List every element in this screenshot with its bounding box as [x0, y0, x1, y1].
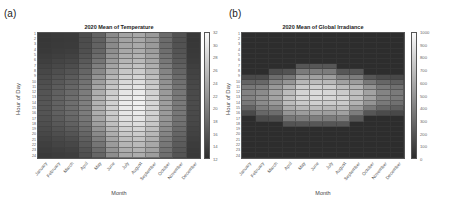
heatmap-cell [173, 153, 187, 158]
x-tick-label: July [325, 161, 334, 170]
heatmap-cell [269, 153, 283, 158]
panel-b-label: (b) [229, 8, 241, 19]
irradiance-heatmap [241, 32, 405, 159]
heatmap-cell [79, 153, 93, 158]
heatmap-cell [119, 153, 133, 158]
temperature-chart-title: 2020 Mean of Temperature [37, 24, 201, 30]
colorbar-tick-label: 26 [213, 68, 218, 73]
colorbar-tick-label: 14 [213, 144, 218, 149]
colorbar-tick-label: 22 [213, 93, 218, 98]
irradiance-colorbar [411, 32, 417, 159]
colorbar-tick-label: 800 [420, 55, 427, 60]
colorbar-tick-label: 20 [213, 106, 218, 111]
irradiance-y-tick-labels: 123456789101112131415161718192021222324 [231, 32, 240, 159]
x-tick-label: March [267, 161, 279, 174]
x-tick-label: May [93, 161, 102, 171]
x-tick-label: June [106, 161, 116, 172]
heatmap-cell [65, 153, 79, 158]
x-tick-label: July [121, 161, 130, 170]
heatmap-cell [283, 153, 297, 158]
temperature-x-axis-title: Month [37, 190, 201, 196]
irradiance-y-axis-title: Hour of Day [225, 83, 231, 115]
heatmap-cell [296, 153, 310, 158]
colorbar-tick-label: 500 [420, 93, 427, 98]
colorbar-tick-label: 700 [420, 68, 427, 73]
colorbar-tick-label: 0 [420, 157, 422, 162]
colorbar-tick-label: 100 [420, 144, 427, 149]
temperature-y-tick-labels: 123456789101112131415161718192021222324 [27, 32, 36, 159]
x-tick-label: March [63, 161, 75, 174]
x-tick-label: June [310, 161, 320, 172]
heatmap-cell [187, 153, 201, 158]
temperature-y-axis-title: Hour of Day [15, 83, 21, 115]
panel-a-label: (a) [4, 8, 16, 19]
heatmap-cell [242, 153, 256, 158]
heatmap-cell [377, 153, 391, 158]
temperature-x-tick-labels: JanuaryFebruaryMarchAprilMayJuneJulyAugu… [37, 161, 201, 191]
temperature-colorbar [204, 32, 210, 159]
colorbar-tick-label: 32 [213, 30, 218, 35]
colorbar-tick-label: 30 [213, 42, 218, 47]
colorbar-tick-label: 28 [213, 55, 218, 60]
heatmap-cell [256, 153, 270, 158]
heatmap-cell [38, 153, 52, 158]
irradiance-x-axis-title: Month [241, 190, 405, 196]
irradiance-chart-title: 2020 Mean of Global Irradiance [241, 24, 405, 30]
colorbar-tick-label: 1000 [420, 30, 429, 35]
colorbar-tick-label: 18 [213, 118, 218, 123]
x-tick-label: May [297, 161, 306, 171]
heatmap-cell [323, 153, 337, 158]
colorbar-tick-label: 900 [420, 42, 427, 47]
y-tick-label: 24 [231, 154, 240, 159]
colorbar-tick-label: 400 [420, 106, 427, 111]
irradiance-x-tick-labels: JanuaryFebruaryMarchAprilMayJuneJulyAugu… [241, 161, 405, 191]
colorbar-tick-label: 200 [420, 131, 427, 136]
heatmap-cell [52, 153, 66, 158]
heatmap-cell [133, 153, 147, 158]
heatmap-cell [391, 153, 405, 158]
heatmap-cell [146, 153, 160, 158]
x-tick-label: April [283, 161, 293, 171]
colorbar-tick-label: 24 [213, 80, 218, 85]
heatmap-cell [364, 153, 378, 158]
heatmap-cell [92, 153, 106, 158]
colorbar-tick-label: 300 [420, 118, 427, 123]
x-tick-label: April [79, 161, 89, 171]
heatmap-cell [337, 153, 351, 158]
heatmap-cell [106, 153, 120, 158]
x-tick-label: August [130, 161, 143, 175]
y-tick-label: 24 [27, 154, 36, 159]
x-tick-label: August [334, 161, 347, 175]
colorbar-tick-label: 12 [213, 157, 218, 162]
colorbar-tick-label: 600 [420, 80, 427, 85]
heatmap-cell [310, 153, 324, 158]
heatmap-cell [160, 153, 174, 158]
colorbar-tick-label: 16 [213, 131, 218, 136]
temperature-heatmap [37, 32, 201, 159]
heatmap-cell [350, 153, 364, 158]
